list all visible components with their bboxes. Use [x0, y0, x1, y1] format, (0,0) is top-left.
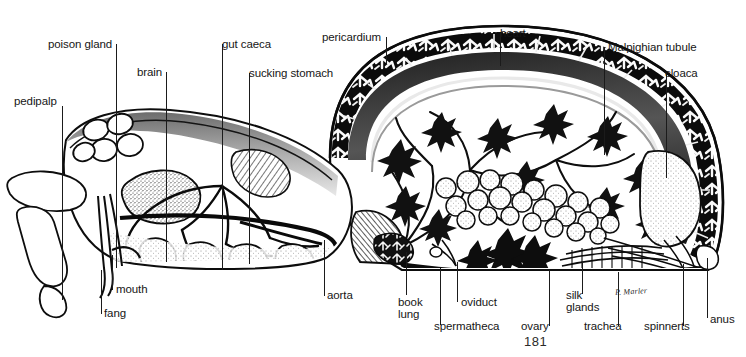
- label-oviduct: oviduct: [461, 296, 497, 309]
- label-fang: fang: [104, 307, 126, 320]
- label-poison-gland: poison gland: [48, 38, 112, 51]
- label-pericardium: pericardium: [322, 31, 381, 44]
- label-heart: heart: [500, 27, 526, 40]
- label-gut-caeca: gut caeca: [222, 38, 271, 51]
- cephalothorax-group: [64, 109, 352, 279]
- artist-signature: P. Marler: [615, 286, 648, 297]
- label-brain: brain: [137, 66, 162, 79]
- label-spinnerts: spinnerts: [644, 320, 690, 333]
- label-aorta: aorta: [327, 289, 353, 302]
- spermatheca-shape: [430, 247, 442, 257]
- label-trachea: trachea: [584, 320, 622, 333]
- label-book-lung: book lung: [398, 296, 423, 320]
- spider-anatomy-illustration: [0, 0, 746, 357]
- label-ovary: ovary: [521, 320, 549, 333]
- label-malpighian-tubule: Malpighian tubule: [608, 41, 696, 54]
- label-cloaca: cloaca: [665, 67, 698, 80]
- page-number: 181: [524, 334, 547, 349]
- label-mouth: mouth: [116, 283, 147, 296]
- label-anus: anus: [710, 313, 735, 326]
- label-spermatheca: spermatheca: [434, 320, 499, 333]
- pedipalp-shape: [7, 171, 86, 317]
- label-silk-glands: silk glands: [566, 289, 599, 313]
- label-pedipalp: pedipalp: [14, 95, 57, 108]
- label-sucking-stomach: sucking stomach: [249, 67, 333, 80]
